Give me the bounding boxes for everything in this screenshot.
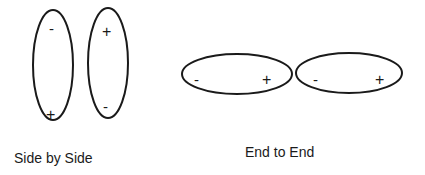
dipole-diagram: - + + - Side by Side - + - + End to End bbox=[0, 0, 425, 175]
side-by-side-group: - + + - Side by Side bbox=[14, 8, 128, 166]
negative-sign: - bbox=[49, 20, 54, 37]
positive-sign: + bbox=[46, 106, 55, 123]
end-to-end-label: End to End bbox=[245, 144, 314, 160]
dipole-ellipse bbox=[296, 53, 402, 93]
dipole-vertical-1: - + bbox=[33, 10, 73, 123]
positive-sign: + bbox=[375, 71, 384, 88]
negative-sign: - bbox=[194, 71, 199, 88]
side-by-side-label: Side by Side bbox=[14, 150, 93, 166]
negative-sign: - bbox=[313, 71, 318, 88]
dipole-horizontal-2: - + bbox=[296, 53, 402, 93]
positive-sign: + bbox=[102, 23, 111, 40]
dipole-vertical-2: + - bbox=[88, 8, 128, 118]
end-to-end-group: - + - + End to End bbox=[182, 53, 402, 160]
positive-sign: + bbox=[262, 71, 271, 88]
dipole-horizontal-1: - + bbox=[182, 54, 292, 94]
negative-sign: - bbox=[103, 98, 108, 115]
